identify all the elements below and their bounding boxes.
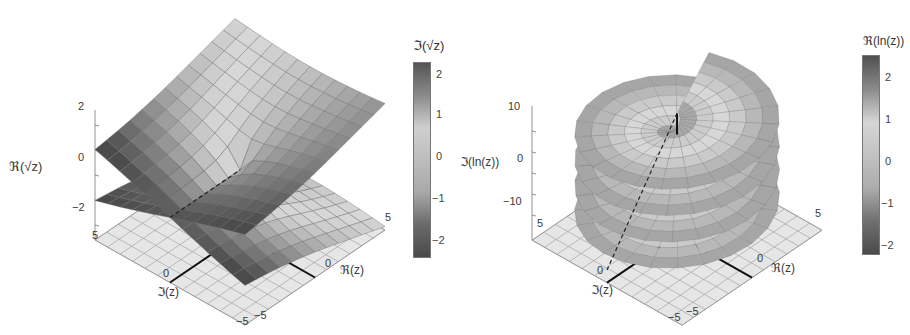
z-tick-bottom: −10 xyxy=(503,196,522,207)
z-tick-mid: 0 xyxy=(517,153,523,164)
x-tick-mid: 0 xyxy=(757,253,763,264)
y-tick-mid: 0 xyxy=(163,268,169,279)
z-tick-mid: 0 xyxy=(78,152,84,163)
colorbar-tick: 1 xyxy=(436,108,442,120)
sqrt-surface-graphic xyxy=(0,0,455,335)
colorbar-tick: 0 xyxy=(436,150,442,162)
colorbar xyxy=(862,55,880,255)
colorbar-tick: 1 xyxy=(885,113,891,125)
x-tick-near: −5 xyxy=(686,306,699,317)
y-tick-mid: 0 xyxy=(597,265,603,276)
z-tick-top: 2 xyxy=(78,101,84,112)
log-surface-graphic xyxy=(455,0,910,335)
z-axis xyxy=(532,106,536,240)
colorbar-tick: 2 xyxy=(885,71,891,83)
colorbar-tick: −2 xyxy=(432,234,445,246)
colorbar-tick: −1 xyxy=(432,192,445,204)
x-axis-label: ℜ(z) xyxy=(771,262,795,274)
z-tick-top: 10 xyxy=(508,101,520,112)
x-tick-far: 5 xyxy=(385,212,391,223)
y-tick-near: −5 xyxy=(668,312,681,323)
log-surface-plot: ℑ(ln(z)) 10 0 −10 5 0 ℑ(z) −5 −5 0 ℜ(z) … xyxy=(455,0,910,335)
x-axis-label: ℜ(z) xyxy=(340,264,364,276)
colorbar-tick: −2 xyxy=(881,239,894,251)
colorbar-tick: 0 xyxy=(885,155,891,167)
y-tick-near: −5 xyxy=(236,316,249,327)
y-tick-far: 5 xyxy=(537,218,543,229)
colorbar-tick: 2 xyxy=(436,68,442,80)
y-tick-far: 5 xyxy=(92,230,98,241)
z-axis-label: ℜ(√z) xyxy=(9,160,42,173)
z-tick-bottom: −2 xyxy=(72,202,85,213)
log-surface xyxy=(575,52,780,268)
colorbar-title: ℑ(√z) xyxy=(413,38,444,53)
x-tick-mid: 0 xyxy=(325,258,331,269)
colorbar-tick: −1 xyxy=(881,197,894,209)
colorbar-title: ℜ(ln(z)) xyxy=(863,34,904,48)
colorbar xyxy=(413,62,431,258)
x-tick-near: −5 xyxy=(254,310,267,321)
z-axis-label: ℑ(ln(z)) xyxy=(460,156,499,168)
x-tick-far: 5 xyxy=(815,208,821,219)
y-axis-label: ℑ(z) xyxy=(157,286,179,298)
sqrt-surface-plot: ℜ(√z) 2 0 −2 5 0 ℑ(z) −5 −5 0 ℜ(z) 5 ℑ(√… xyxy=(0,0,455,335)
y-axis-label: ℑ(z) xyxy=(591,284,613,296)
z-axis xyxy=(95,110,99,240)
